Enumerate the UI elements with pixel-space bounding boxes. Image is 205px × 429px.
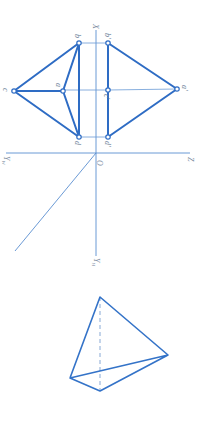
label-d-prime: d' — [103, 141, 112, 147]
point-c-prime — [106, 88, 110, 92]
label-a-prime: a' — [180, 85, 189, 91]
label-d: d — [73, 141, 82, 146]
projection-diagram: X O Z YW YH b d c a b' c' d' a' — [0, 0, 205, 429]
label-c-prime: c' — [102, 94, 111, 100]
point-a — [61, 89, 65, 93]
label-b-prime: b' — [103, 33, 112, 39]
label-x-axis: X — [91, 23, 100, 30]
diagonal-45-line — [15, 153, 96, 251]
visible-edges — [70, 297, 168, 391]
label-yw-axis: YW — [1, 156, 11, 165]
label-a: a — [54, 83, 63, 87]
label-yh-axis: YH — [91, 258, 101, 266]
point-d-prime — [106, 135, 110, 139]
point-d — [77, 135, 81, 139]
label-z-axis: Z — [186, 157, 195, 162]
point-a-prime — [175, 87, 179, 91]
point-b-prime — [106, 41, 110, 45]
point-b — [77, 41, 81, 45]
label-origin: O — [95, 160, 104, 166]
label-c: c — [1, 88, 10, 92]
label-b: b — [73, 34, 82, 38]
tetrahedron-sketch — [70, 297, 168, 391]
vertical-projection — [106, 41, 179, 139]
point-c — [12, 89, 16, 93]
